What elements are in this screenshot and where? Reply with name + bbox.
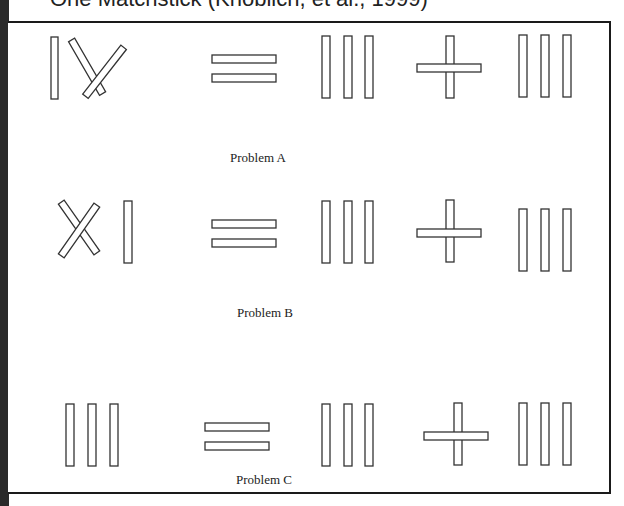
problem-a-equation [51, 35, 571, 99]
matchstick-figures [0, 0, 624, 506]
problem-c-label: Problem C [236, 472, 292, 488]
problem-c-equation [66, 403, 571, 466]
problem-b-equation [58, 200, 571, 271]
problem-b-label: Problem B [237, 305, 293, 321]
problem-a-label: Problem A [230, 150, 286, 166]
